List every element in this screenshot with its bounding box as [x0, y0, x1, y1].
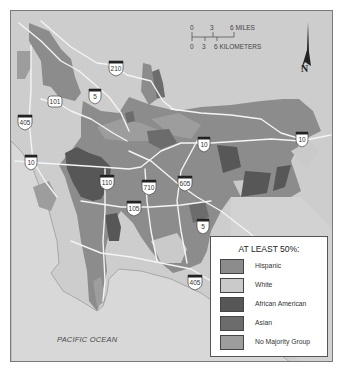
shield-i605: 605 [178, 176, 192, 191]
svg-text:5: 5 [201, 223, 205, 230]
shield-i10-west: 10 [25, 155, 37, 170]
svg-text:105: 105 [129, 205, 140, 212]
legend-swatch-no-majority [220, 335, 244, 350]
shield-i10-east: 10 [296, 132, 308, 147]
scale-miles-0: 0 [190, 24, 194, 31]
svg-text:5: 5 [93, 93, 97, 100]
legend-item-white: White [220, 278, 326, 294]
svg-text:605: 605 [180, 180, 191, 187]
shield-i105: 105 [127, 201, 141, 216]
legend: AT LEAST 50%: Hispanic White African Ame… [210, 236, 328, 357]
shield-i710: 710 [142, 180, 156, 195]
scale-bar-lines [190, 32, 270, 42]
shield-i5-south: 5 [197, 219, 209, 234]
svg-text:101: 101 [50, 98, 61, 105]
legend-title: AT LEAST 50%: [211, 244, 327, 254]
scale-miles-6: 6 MILES [230, 24, 255, 31]
svg-text:110: 110 [102, 179, 113, 186]
legend-item-no-majority: No Majority Group [220, 335, 326, 351]
scale-km-0: 0 [190, 43, 194, 50]
legend-label-asian: Asian [255, 319, 272, 326]
legend-label-no-majority: No Majority Group [255, 338, 310, 345]
shield-i405-north: 405 [18, 115, 32, 130]
legend-item-african-american: African American [220, 297, 326, 313]
scale-bar: 0 3 6 MILES 0 3 6 KILOMETERS [190, 24, 300, 54]
legend-swatch-asian [220, 316, 244, 331]
legend-swatch-african-american [220, 297, 244, 312]
svg-text:10: 10 [27, 159, 35, 166]
legend-label-white: White [255, 281, 272, 288]
shield-i10-central: 10 [198, 137, 210, 152]
scale-miles-3: 3 [210, 24, 214, 31]
legend-label-african-american: African American [255, 300, 306, 307]
scale-km-6: 6 KILOMETERS [214, 43, 261, 50]
legend-label-hispanic: Hispanic [255, 262, 281, 269]
scale-km-3: 3 [202, 43, 206, 50]
svg-text:405: 405 [20, 119, 31, 126]
svg-text:710: 710 [144, 184, 155, 191]
ocean-label: PACIFIC OCEAN [57, 335, 117, 344]
shield-i210: 210 [109, 61, 123, 76]
svg-text:405: 405 [190, 279, 201, 286]
north-label: N [301, 63, 308, 74]
legend-swatch-hispanic [220, 259, 244, 274]
shield-us101: 101 [48, 96, 62, 107]
legend-item-asian: Asian [220, 316, 326, 332]
svg-text:210: 210 [111, 65, 122, 72]
legend-item-hispanic: Hispanic [220, 259, 326, 275]
svg-text:10: 10 [298, 136, 306, 143]
shield-i405-south: 405 [188, 275, 202, 290]
shield-i5-north: 5 [89, 89, 101, 104]
svg-text:10: 10 [200, 141, 208, 148]
shield-i110: 110 [100, 175, 114, 190]
legend-swatch-white [220, 278, 244, 293]
